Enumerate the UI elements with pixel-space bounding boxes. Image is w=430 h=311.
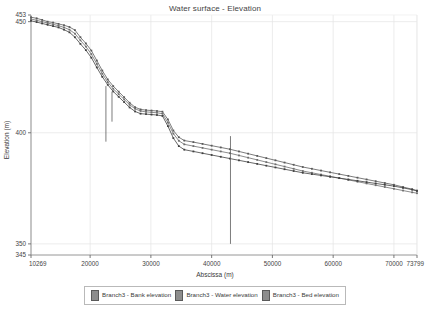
series-point [220, 147, 222, 149]
chart-window: Water surface - Elevation 10269200003000… [0, 0, 430, 311]
series-point [256, 155, 258, 157]
series-point [58, 27, 60, 29]
series-point [293, 168, 295, 170]
series-point [151, 110, 153, 112]
series-point [101, 76, 103, 78]
series-point [183, 140, 185, 142]
series-point [36, 17, 38, 19]
series-point [193, 145, 195, 147]
series-point [265, 157, 267, 159]
x-tick-label: 40000 [203, 260, 221, 267]
x-tick-label: 73799 [406, 260, 424, 267]
series-line [31, 19, 417, 193]
series-point [52, 25, 54, 27]
series-point [375, 184, 377, 186]
x-tick-label: 70000 [385, 260, 403, 267]
series-point [30, 16, 32, 18]
series-point [36, 21, 38, 23]
series-point [238, 151, 240, 153]
series-point [416, 192, 418, 194]
series-point [162, 111, 164, 113]
series-point [96, 67, 98, 69]
series-point [247, 153, 249, 155]
series-point [293, 170, 295, 172]
series-point [151, 111, 153, 113]
series-point [211, 149, 213, 151]
series-point [162, 115, 164, 117]
legend-swatch-bed-elevation [262, 290, 270, 301]
series-point [338, 177, 340, 179]
series-point [145, 111, 147, 113]
series-point [256, 163, 258, 165]
series-point [402, 187, 404, 189]
legend-item[interactable]: Branch3 - Water elevation [175, 290, 257, 301]
series-point [112, 91, 114, 93]
series-point [47, 22, 49, 24]
series-point [211, 154, 213, 156]
series-point [366, 179, 368, 181]
series-point [107, 81, 109, 83]
series-point [118, 91, 120, 93]
series-point [96, 60, 98, 62]
series-point [58, 23, 60, 25]
series-point [275, 163, 277, 165]
series-point [63, 24, 65, 26]
series-point [85, 43, 87, 45]
series-point [384, 186, 386, 188]
y-axis-label: Elevation (m) [3, 121, 11, 159]
series-point [90, 53, 92, 55]
series-point [366, 181, 368, 183]
series-point [74, 33, 76, 35]
x-tick-label: 60000 [324, 260, 342, 267]
series-point [112, 88, 114, 90]
series-point [311, 168, 313, 170]
series-point [311, 173, 313, 175]
series-point [384, 184, 386, 186]
series-point [140, 110, 142, 112]
y-tick-label: 453 [15, 11, 26, 18]
series-point [69, 31, 71, 33]
series-point [80, 36, 82, 38]
series-point [416, 190, 418, 192]
series-point [156, 112, 158, 114]
series-point [329, 176, 331, 178]
series-point [129, 104, 131, 106]
series-point [129, 107, 131, 109]
series-point [101, 73, 103, 75]
series-point [107, 79, 109, 81]
x-tick-label: 20000 [81, 260, 99, 267]
legend-label: Branch3 - Bed elevation [273, 292, 339, 298]
series-point [178, 136, 180, 138]
series-point [123, 96, 125, 98]
legend-label: Branch3 - Water elevation [186, 292, 257, 298]
series-point [101, 70, 103, 72]
legend-item[interactable]: Branch3 - Bank elevation [91, 290, 171, 301]
series-point [41, 23, 43, 25]
series-point [172, 133, 174, 135]
series-point [302, 170, 304, 172]
series-point [220, 156, 222, 158]
chart-legend: Branch3 - Bank elevation Branch3 - Water… [84, 286, 346, 305]
series-point [202, 152, 204, 154]
series-point [275, 167, 277, 169]
series-point [30, 18, 32, 20]
series-point [329, 171, 331, 173]
series-point [320, 170, 322, 172]
series-point [140, 113, 142, 115]
series-point [265, 165, 267, 167]
series-point [178, 140, 180, 142]
series-point [211, 145, 213, 147]
legend-item[interactable]: Branch3 - Bed elevation [262, 290, 339, 301]
series-point [80, 39, 82, 41]
series-point [172, 137, 174, 139]
y-tick-label: 350 [15, 240, 26, 247]
series-point [247, 161, 249, 163]
series-point [238, 155, 240, 157]
series-point [193, 151, 195, 153]
series-point [118, 96, 120, 98]
series-point [338, 173, 340, 175]
series-point [162, 113, 164, 115]
series-point [247, 157, 249, 159]
series-point [302, 166, 304, 168]
series-point [90, 50, 92, 52]
